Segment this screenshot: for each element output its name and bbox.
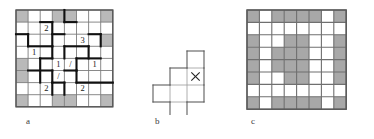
panel-label-a: a [26, 116, 30, 126]
tile-cell [187, 51, 204, 68]
shaded-cell [101, 34, 113, 46]
panel-a-svg: 2311/1/22 [14, 8, 115, 109]
cell-annotation: 1 [56, 59, 60, 69]
shaded-cell [297, 47, 309, 59]
shaded-cell [334, 35, 346, 47]
cell-annotation: 2 [80, 83, 84, 93]
cell-annotation: 1 [32, 47, 36, 57]
shaded-cell [64, 10, 76, 22]
panel-a-grid: 2311/1/22 [14, 8, 115, 109]
shaded-cell [297, 60, 309, 72]
panel-c-grid [245, 8, 349, 112]
shaded-cell [284, 35, 296, 47]
panel-b-svg [145, 45, 225, 115]
cell-annotation: / [69, 59, 72, 69]
cell-annotation: 1 [93, 59, 97, 69]
shaded-cell [101, 10, 113, 22]
shaded-cell [52, 10, 64, 22]
shaded-cell [272, 10, 284, 22]
shaded-cell [247, 60, 259, 72]
shaded-cell [297, 72, 309, 84]
shaded-cell [284, 72, 296, 84]
shaded-cell [16, 10, 28, 22]
shaded-cell [284, 97, 296, 109]
shaded-cell [297, 10, 309, 22]
figure-container: 2311/1/22 a b c [0, 0, 374, 139]
shaded-cell [247, 97, 259, 109]
shaded-cell [247, 72, 259, 84]
shaded-cell [272, 97, 284, 109]
shaded-cell [297, 35, 309, 47]
shaded-cell [334, 47, 346, 59]
shaded-cell [297, 97, 309, 109]
cell-annotation: 3 [80, 35, 84, 45]
shaded-cell [334, 72, 346, 84]
shaded-cell [247, 47, 259, 59]
cell-annotation: / [57, 71, 60, 81]
shaded-cell [284, 47, 296, 59]
tile-cell [170, 68, 187, 85]
tile-cell [170, 102, 187, 115]
tile-cell [187, 85, 204, 102]
shaded-cell [16, 58, 28, 70]
tile-cell [170, 85, 187, 102]
shaded-cell [272, 47, 284, 59]
shaded-cell [16, 95, 28, 107]
shaded-cell [247, 10, 259, 22]
cell-annotation: 2 [44, 23, 48, 33]
tile-cell [153, 85, 170, 102]
shaded-cell [52, 95, 64, 107]
shaded-cell [272, 60, 284, 72]
panel-label-c: c [251, 116, 255, 126]
shaded-cell [64, 95, 76, 107]
shaded-cell [101, 95, 113, 107]
shaded-cell [284, 10, 296, 22]
panel-label-b: b [155, 116, 160, 126]
panel-c-svg [245, 8, 349, 112]
shaded-cell [334, 10, 346, 22]
shaded-cell [309, 97, 321, 109]
cell-annotation: 2 [44, 83, 48, 93]
shaded-cell [309, 10, 321, 22]
shaded-cell [247, 35, 259, 47]
shaded-cell [284, 60, 296, 72]
shaded-cell [334, 60, 346, 72]
panel-b-tile [145, 45, 225, 115]
shaded-cell [334, 97, 346, 109]
shaded-cell [16, 71, 28, 83]
